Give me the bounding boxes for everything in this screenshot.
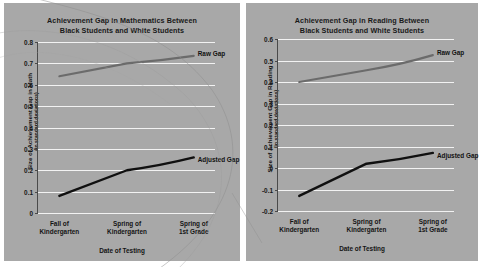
x-axis-category-label: Spring of1st Grade bbox=[418, 218, 447, 234]
x-axis-category-line2: 1st Grade bbox=[418, 226, 447, 234]
x-axis-category-line2: Kindergarten bbox=[39, 228, 79, 236]
y-axis-tick-label: -0.2 bbox=[262, 208, 273, 215]
y-axis-tick-label: 0 bbox=[29, 210, 33, 217]
y-axis-tick bbox=[35, 213, 38, 214]
x-axis-category-line2: Kindergarten bbox=[107, 228, 147, 236]
plot-area-math: 0.80.70.60.50.40.30.20.10Fall ofKinderga… bbox=[37, 42, 215, 213]
x-axis-category-line1: Spring of bbox=[107, 220, 147, 228]
y-axis-tick-label: 0.5 bbox=[264, 57, 273, 64]
y-axis-tick bbox=[275, 211, 278, 212]
x-axis-category-line2: 1st Grade bbox=[179, 228, 208, 236]
y-axis-tick-label: 0.4 bbox=[24, 124, 33, 131]
x-axis-title-reading: Date of Testing bbox=[246, 245, 478, 252]
x-axis-category-label: Spring ofKindergarten bbox=[107, 220, 147, 236]
y-axis-tick-label: 0.8 bbox=[24, 39, 33, 46]
y-axis-tick-label: 0.5 bbox=[24, 103, 33, 110]
series-lines bbox=[278, 39, 455, 211]
x-axis-category-label: Fall ofKindergarten bbox=[39, 220, 79, 236]
y-axis-tick-label: 0.6 bbox=[264, 36, 273, 43]
y-axis-tick-label: 0.3 bbox=[24, 145, 33, 152]
y-axis-tick-label: 0 bbox=[269, 165, 273, 172]
chart-title-line2: Black Students and White Students bbox=[260, 26, 464, 36]
x-axis-category-line2: Kindergarten bbox=[279, 226, 319, 234]
y-axis-tick-label: -0.1 bbox=[262, 186, 273, 193]
x-axis-category-line1: Fall of bbox=[279, 218, 319, 226]
y-axis-tick-label: 0.7 bbox=[24, 60, 33, 67]
series-line-adjusted-gap bbox=[299, 153, 433, 196]
x-axis-category-label: Spring of1st Grade bbox=[179, 220, 208, 236]
x-axis-category-line2: Kindergarten bbox=[347, 226, 387, 234]
figure-container: Achievement Gap in Mathematics Between B… bbox=[0, 0, 482, 267]
x-axis-category-line1: Spring of bbox=[179, 220, 208, 228]
x-axis-category-line1: Spring of bbox=[418, 218, 447, 226]
series-line-adjusted-gap bbox=[59, 157, 193, 195]
x-axis-category-label: Fall ofKindergarten bbox=[279, 218, 319, 234]
chart-title-line1: Achievement Gap in Mathematics Between bbox=[47, 16, 197, 25]
y-axis-tick-label: 0.2 bbox=[264, 122, 273, 129]
gridline bbox=[38, 213, 215, 214]
chart-panel-math: Achievement Gap in Mathematics Between B… bbox=[4, 3, 240, 261]
x-axis-title-math: Date of Testing bbox=[4, 247, 240, 254]
chart-title-math: Achievement Gap in Mathematics Between B… bbox=[4, 16, 240, 35]
chart-panel-reading: Achievement Gap in Reading Between Black… bbox=[246, 3, 478, 261]
y-axis-tick-label: 0.6 bbox=[24, 81, 33, 88]
series-line-raw-gap bbox=[299, 55, 433, 82]
chart-title-line2: Black Students and White Students bbox=[18, 26, 226, 36]
plot-area-reading: 0.60.50.40.30.20.10-0.1-0.2Fall ofKinder… bbox=[277, 39, 454, 211]
chart-title-line1: Achievement Gap in Reading Between bbox=[295, 16, 429, 25]
x-axis-category-line1: Fall of bbox=[39, 220, 79, 228]
y-axis-tick-label: 0.1 bbox=[24, 188, 33, 195]
y-axis-tick-label: 0.2 bbox=[24, 167, 33, 174]
y-axis-tick-label: 0.4 bbox=[264, 79, 273, 86]
x-axis-category-label: Spring ofKindergarten bbox=[347, 218, 387, 234]
x-axis-category-line1: Spring of bbox=[347, 218, 387, 226]
series-lines bbox=[38, 42, 216, 213]
gridline bbox=[278, 211, 454, 212]
series-line-raw-gap bbox=[59, 56, 193, 76]
y-axis-tick-label: 0.3 bbox=[264, 100, 273, 107]
y-axis-tick-label: 0.1 bbox=[264, 143, 273, 150]
